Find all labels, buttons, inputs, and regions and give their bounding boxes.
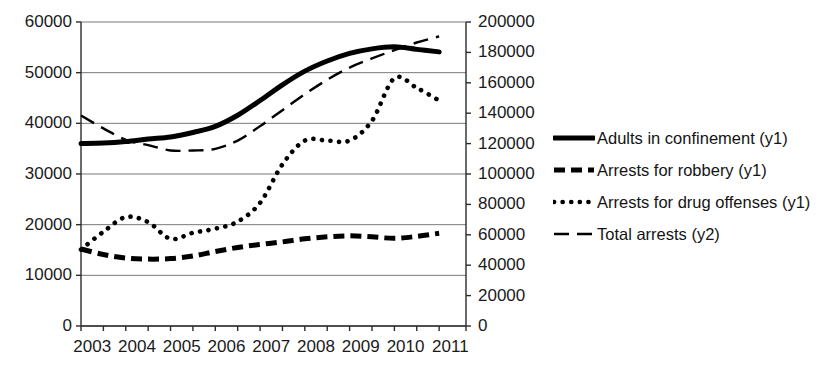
legend-item[interactable]: Adults in confinement (y1) [553,122,827,154]
data-series [81,36,439,259]
y-right-tick-label: 60000 [478,226,525,243]
y-right-tick-label: 180000 [478,43,535,60]
x-tick-label: 2011 [420,338,480,355]
y-left-tick-label: 60000 [25,13,72,30]
y-left-tick-label: 20000 [25,216,72,233]
axis-ticks [76,22,471,331]
y-left-tick-label: 40000 [25,114,72,131]
gridlines [81,22,466,326]
y-right-tick-label: 200000 [478,13,535,30]
legend-label: Arrests for drug offenses (y1) [597,194,810,211]
chart-legend: Adults in confinement (y1)Arrests for ro… [553,122,827,250]
legend-marker-icon [553,131,595,145]
y-right-tick-label: 160000 [478,74,535,91]
y-right-tick-label: 0 [478,317,487,334]
legend-marker-icon [553,195,595,209]
legend-item[interactable]: Arrests for drug offenses (y1) [553,186,827,218]
series-line-1 [81,233,439,259]
y-left-tick-label: 50000 [25,64,72,81]
legend-label: Arrests for robbery (y1) [597,162,767,179]
legend-item[interactable]: Total arrests (y2) [553,218,827,250]
series-line-3 [81,36,439,150]
legend-marker-icon [553,163,595,177]
legend-marker-icon [553,227,595,241]
y-left-tick-label: 30000 [25,165,72,182]
y-left-tick-label: 0 [63,317,72,334]
y-right-tick-label: 20000 [478,287,525,304]
legend-label: Total arrests (y2) [597,226,720,243]
chart-figure: 0100002000030000400005000060000 02000040… [0,0,827,368]
y-right-tick-label: 80000 [478,195,525,212]
y-left-tick-label: 10000 [25,266,72,283]
y-right-tick-label: 40000 [478,256,525,273]
legend-item[interactable]: Arrests for robbery (y1) [553,154,827,186]
chart-screenshot: 0100002000030000400005000060000 02000040… [0,0,827,368]
y-right-tick-label: 120000 [478,135,535,152]
y-right-tick-label: 140000 [478,104,535,121]
legend-label: Adults in confinement (y1) [597,130,788,147]
y-right-tick-label: 100000 [478,165,535,182]
